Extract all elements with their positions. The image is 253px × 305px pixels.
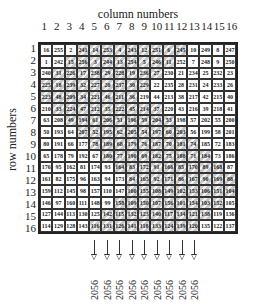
grid-cell: 196 [126,115,138,127]
grid-cell: 227 [89,79,101,91]
grid-cell: 200 [224,115,236,127]
grid-cell: 96 [77,173,89,185]
grid-cell: 205 [126,126,138,138]
grid-cell: 151 [212,185,224,197]
grid-cell: 163 [89,173,101,185]
grid-cell: 223 [40,91,52,103]
grid-cell: 44 [150,91,162,103]
grid-cell: 75 [163,150,175,162]
grid-cell: 189 [101,138,113,150]
row-number: 12 [22,174,36,186]
grid-cell: 147 [114,185,126,197]
grid-cell: 164 [114,162,126,174]
grid-cell: 166 [163,162,175,174]
grid-cell: 241 [77,44,89,56]
row-numbers-title: row numbers [5,90,20,190]
grid-cell: 195 [101,126,113,138]
grid-cell: 2 [65,44,77,56]
grid-cell: 236 [138,68,150,80]
grid-cell: 131 [101,220,113,232]
grid-cell: 39 [199,103,211,115]
row-number: 14 [22,198,36,210]
grid-cell: 22 [150,79,162,91]
grid-cell: 180 [101,150,113,162]
grid-cell: 218 [212,103,224,115]
grid-cell: 132 [126,209,138,221]
grid-cell: 181 [175,138,187,150]
grid-cell: 143 [77,220,89,232]
grid-cell: 82 [52,173,64,185]
sum-arrow: 2056 [126,238,139,304]
sum-arrow: 2056 [138,238,151,304]
sum-arrow: 2056 [188,238,201,304]
grid-cell: 193 [52,126,64,138]
grid-cell: 125 [89,209,101,221]
grid-cell: 91 [150,162,162,174]
grid-cell: 234 [187,68,199,80]
sum-arrow: 2056 [176,238,189,304]
grid-cell: 12 [138,44,150,56]
grid-cell: 116 [89,220,101,232]
grid-cell: 197 [150,126,162,138]
grid-cell: 100 [126,185,138,197]
grid-cell: 188 [175,150,187,162]
grid-cell: 110 [101,185,113,197]
grid-cell: 87 [224,162,236,174]
grid-cell: 111 [77,197,89,209]
grid-cell: 3 [89,56,101,68]
grid-cell: 224 [65,103,77,115]
grid-cell: 62 [114,126,126,138]
grid-cell: 31 [52,68,64,80]
row-number: 8 [22,126,36,138]
column-number: 7 [113,20,126,34]
grid-cell: 59 [138,115,150,127]
grid-cell: 160 [65,197,77,209]
grid-cell: 135 [199,220,211,232]
grid-cell: 105 [224,197,236,209]
grid-cell: 6 [163,44,175,56]
column-sum-label: 2056 [127,280,138,300]
grid-cell: 171 [163,173,175,185]
grid-cell: 99 [101,197,113,209]
grid-cell: 103 [199,197,211,209]
grid-cell: 42 [199,91,211,103]
grid-cell: 18 [52,79,64,91]
grid-cell: 102 [175,185,187,197]
grid-cell: 74 [187,138,199,150]
grid-cell: 174 [89,162,101,174]
grid-cell: 222 [114,103,126,115]
row-number: 13 [22,186,36,198]
grid-cell: 216 [187,103,199,115]
grid-cell: 60 [163,126,175,138]
grid-cell: 219 [138,91,150,103]
grid-cell: 203 [175,126,187,138]
grid-cell: 23 [224,68,236,80]
row-number-labels: 12345678910111213141516 [22,42,36,234]
column-number: 2 [51,20,64,34]
column-number: 6 [101,20,114,34]
grid-cell: 46 [101,91,113,103]
grid-cell: 19 [126,68,138,80]
grid-cell: 71 [187,150,199,162]
grid-cell: 253 [101,44,113,56]
grid-cell: 210 [40,103,52,115]
grid-cell: 226 [65,68,77,80]
grid-cell: 5 [138,56,150,68]
row-number: 16 [22,222,36,234]
grid-cell: 9 [212,56,224,68]
grid-cell: 140 [150,209,162,221]
grid-cell: 186 [224,150,236,162]
column-number: 12 [176,20,189,34]
grid-cell: 233 [212,79,224,91]
grid-cell: 1 [40,56,52,68]
row-number: 5 [22,90,36,102]
grid-cell: 133 [150,220,162,232]
grid-cell: 244 [101,56,113,68]
grid-cell: 206 [101,115,113,127]
column-sum-label: 2056 [89,280,100,300]
grid-cell: 148 [89,197,101,209]
grid-cell: 238 [89,68,101,80]
grid-cell: 176 [40,162,52,174]
grid-cell: 38 [175,91,187,103]
grid-cell: 67 [89,150,101,162]
